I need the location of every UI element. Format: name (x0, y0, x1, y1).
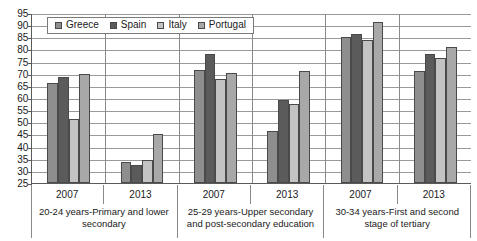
x-axis-group-row: 20-24 years-Primary and lowersecondary25… (31, 204, 471, 238)
bar-portugal-2 (226, 73, 237, 184)
bar-greece-5 (414, 71, 425, 183)
bars-layer (32, 14, 471, 183)
y-axis-tick-label: 80 (17, 45, 28, 55)
bar-portugal-1 (153, 134, 164, 183)
legend-label: Spain (121, 20, 147, 30)
y-axis-tick-label: 90 (17, 21, 28, 31)
bar-italy-1 (142, 160, 153, 183)
bar-greece-4 (341, 37, 352, 183)
category-separator (105, 14, 106, 183)
legend-swatch-icon (110, 22, 117, 29)
bar-spain-4 (351, 34, 362, 183)
bar-spain-1 (131, 165, 142, 183)
legend-item-portugal[interactable]: Portugal (198, 20, 246, 30)
x-axis-year-row: 200720132007201320072013 (31, 185, 471, 204)
y-axis-tick-label: 60 (17, 94, 28, 104)
category-separator (325, 14, 326, 183)
bar-italy-3 (289, 104, 300, 183)
bar-greece-2 (194, 70, 205, 183)
y-axis-tick-label: 45 (17, 130, 28, 140)
y-axis-tick-label: 50 (17, 118, 28, 128)
legend-label: Greece (66, 20, 99, 30)
legend-label: Portugal (209, 20, 246, 30)
bar-spain-3 (278, 100, 289, 183)
plot-area (31, 14, 471, 184)
x-axis-group-caption: 25-29 years-Upper secondaryand post-seco… (178, 204, 325, 238)
group-caption-text: 30-34 years-First and secondstage of ter… (335, 206, 459, 229)
bar-italy-5 (435, 58, 446, 183)
y-axis-tick-label: 55 (17, 106, 28, 116)
y-axis-tick-label: 35 (17, 155, 28, 165)
x-axis-year-label: 2007 (178, 185, 251, 204)
bar-greece-0 (47, 83, 58, 183)
x-axis-group-caption: 20-24 years-Primary and lowersecondary (31, 204, 178, 238)
y-axis-tick-label: 70 (17, 70, 28, 80)
legend-item-spain[interactable]: Spain (110, 20, 147, 30)
x-axis-year-label: 2013 (104, 185, 177, 204)
legend-swatch-icon (157, 22, 164, 29)
x-axis-year-label: 2007 (31, 185, 104, 204)
bar-portugal-3 (299, 71, 310, 183)
bar-spain-2 (205, 54, 216, 183)
x-axis-year-label: 2007 (324, 185, 397, 204)
legend-label: Italy (168, 20, 186, 30)
category-separator (179, 14, 180, 183)
bar-portugal-0 (79, 74, 90, 183)
x-axis-year-label: 2013 (251, 185, 324, 204)
x-axis-group-caption: 30-34 years-First and secondstage of ter… (324, 204, 471, 238)
y-axis-tick-label: 95 (17, 9, 28, 19)
bar-italy-4 (362, 40, 373, 183)
y-axis-tick-label: 25 (17, 179, 28, 189)
bar-portugal-5 (446, 47, 457, 183)
legend-item-italy[interactable]: Italy (157, 20, 186, 30)
y-axis-labels: 959085807570656055504540353025 (0, 14, 28, 184)
category-separator (252, 14, 253, 183)
y-axis-tick-label: 75 (17, 58, 28, 68)
legend-swatch-icon (198, 22, 205, 29)
bar-spain-5 (425, 54, 436, 183)
y-axis-tick-label: 65 (17, 82, 28, 92)
legend-item-greece[interactable]: Greece (55, 20, 99, 30)
x-axis-left-edge (31, 185, 32, 238)
bar-greece-3 (267, 131, 278, 183)
x-axis-year-label: 2013 (398, 185, 471, 204)
y-axis-tick-label: 40 (17, 143, 28, 153)
bar-greece-1 (121, 162, 132, 183)
bar-portugal-4 (373, 22, 384, 184)
group-caption-text: 25-29 years-Upper secondaryand post-seco… (187, 206, 314, 229)
bar-spain-0 (58, 77, 69, 183)
y-axis-tick-label: 30 (17, 167, 28, 177)
y-axis-tick-label: 85 (17, 33, 28, 43)
legend-swatch-icon (55, 22, 62, 29)
bar-italy-0 (69, 119, 80, 183)
chart-legend: GreeceSpainItalyPortugal (47, 17, 254, 34)
bar-italy-2 (215, 79, 226, 183)
category-separator (399, 14, 400, 183)
group-caption-text: 20-24 years-Primary and lowersecondary (39, 206, 169, 229)
bar-chart: 959085807570656055504540353025 GreeceSpa… (0, 0, 477, 241)
